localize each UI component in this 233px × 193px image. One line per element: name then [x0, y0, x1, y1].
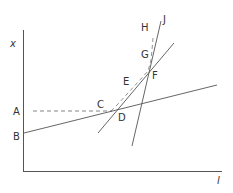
point-label-f: F	[152, 70, 158, 81]
line-df	[98, 43, 174, 133]
point-label-a: A	[13, 106, 20, 117]
point-label-c: C	[97, 99, 104, 110]
y-axis-label: x	[9, 38, 16, 49]
point-label-h: H	[141, 22, 149, 33]
diagram: x l A B C D E F G H J	[0, 0, 233, 193]
point-label-g: G	[141, 49, 149, 60]
point-label-d: D	[118, 112, 126, 123]
diagram-canvas: x l A B C D E F G H J	[0, 0, 233, 193]
point-label-e: E	[123, 76, 129, 87]
point-label-j: J	[162, 14, 166, 25]
x-axis-label: l	[217, 175, 220, 186]
line-b	[24, 85, 217, 133]
point-label-b: B	[13, 131, 20, 142]
